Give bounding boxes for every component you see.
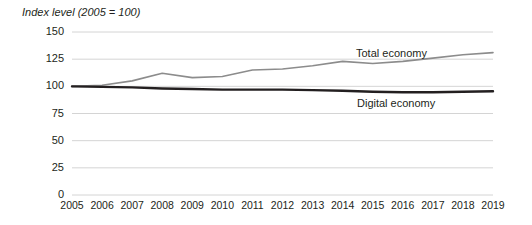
x-tick-label: 2010 xyxy=(205,199,239,211)
y-tick-label: 100 xyxy=(24,80,64,91)
x-tick-label: 2012 xyxy=(266,199,300,211)
y-tick-label: 150 xyxy=(24,26,64,37)
y-tick-label: 75 xyxy=(24,108,64,119)
gridlines-group xyxy=(72,32,493,195)
x-tick-label: 2017 xyxy=(416,199,450,211)
x-tick-label: 2008 xyxy=(145,199,179,211)
x-tick-label: 2018 xyxy=(446,199,480,211)
chart-figure: Index level (2005 = 100) 025507510012515… xyxy=(0,0,532,225)
plot-area xyxy=(0,0,532,225)
series-line-total-economy xyxy=(72,53,493,87)
x-tick-label: 2009 xyxy=(175,199,209,211)
x-tick-label: 2006 xyxy=(85,199,119,211)
x-tick-label: 2011 xyxy=(235,199,269,211)
y-tick-label: 50 xyxy=(24,135,64,146)
x-tick-label: 2014 xyxy=(326,199,360,211)
y-tick-label: 125 xyxy=(24,53,64,64)
x-tick-label: 2019 xyxy=(476,199,510,211)
x-tick-label: 2013 xyxy=(296,199,330,211)
x-tick-label: 2015 xyxy=(356,199,390,211)
series-line-digital-economy xyxy=(72,86,493,92)
x-tick-label: 2016 xyxy=(386,199,420,211)
y-tick-label: 25 xyxy=(24,162,64,173)
series-label-digital-economy: Digital economy xyxy=(357,97,435,109)
x-tick-label: 2005 xyxy=(55,199,89,211)
x-tick-label: 2007 xyxy=(115,199,149,211)
series-label-total-economy: Total economy xyxy=(356,47,427,59)
